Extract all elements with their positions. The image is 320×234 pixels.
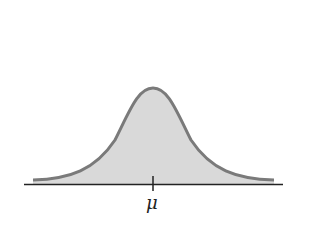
curve-area [33, 88, 274, 184]
mean-label: μ [146, 192, 158, 213]
